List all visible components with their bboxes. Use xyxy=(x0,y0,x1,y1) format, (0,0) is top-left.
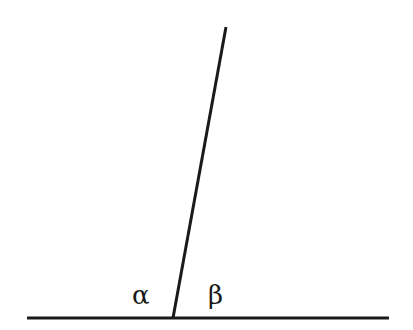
beta-label: β xyxy=(208,280,223,310)
oblique-line xyxy=(173,27,226,318)
angle-diagram: α β xyxy=(0,0,413,330)
alpha-label: α xyxy=(132,280,150,310)
